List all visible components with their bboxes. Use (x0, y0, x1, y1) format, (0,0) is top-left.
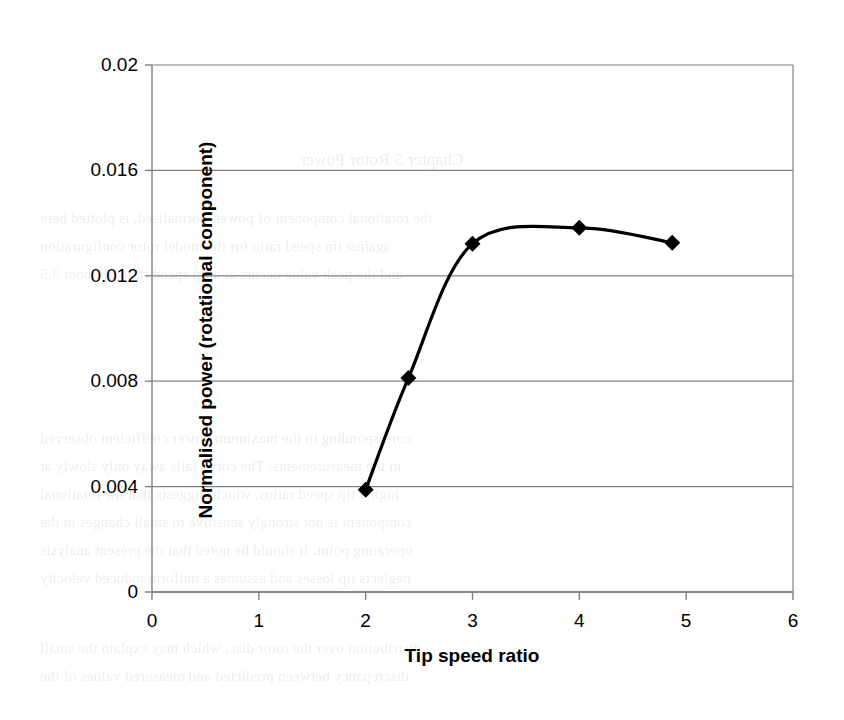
y-tick-label: 0.004 (0, 476, 138, 498)
x-axis-title: Tip speed ratio (405, 645, 540, 667)
y-tick-label: 0.016 (0, 159, 138, 181)
data-series-line (366, 226, 673, 490)
x-tick-label: 1 (254, 610, 265, 632)
data-point-marker (571, 220, 587, 236)
y-axis-title: Normalised power (rotational component) (195, 142, 217, 519)
chart-figure: 00.0040.0080.0120.0160.02 0123456 Tip sp… (0, 0, 844, 720)
x-tick-label: 3 (467, 610, 478, 632)
y-tick-label: 0.02 (0, 54, 138, 76)
x-tick-marks-group (152, 592, 793, 600)
data-series-markers (358, 220, 681, 498)
gridlines-group (152, 65, 793, 592)
data-point-marker (400, 370, 416, 386)
plot-frame-group (152, 65, 793, 592)
x-tick-label: 0 (147, 610, 158, 632)
x-tick-label: 6 (788, 610, 799, 632)
data-point-marker (358, 482, 374, 498)
data-point-marker (664, 235, 680, 251)
y-tick-label: 0 (0, 581, 138, 603)
x-tick-label: 4 (574, 610, 585, 632)
chart-plot-area (0, 0, 844, 720)
y-tick-label: 0.008 (0, 370, 138, 392)
y-tick-marks-group (145, 65, 152, 592)
x-tick-label: 5 (681, 610, 692, 632)
x-tick-label: 2 (360, 610, 371, 632)
y-tick-label: 0.012 (0, 265, 138, 287)
